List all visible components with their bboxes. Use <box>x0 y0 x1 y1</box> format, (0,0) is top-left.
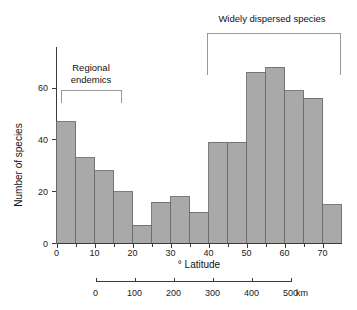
histogram-bar <box>114 192 133 244</box>
y-tick-label-0: 0 <box>43 239 48 249</box>
regional-endemics-label-line1: Regional <box>72 62 110 73</box>
histogram-bar <box>266 67 285 243</box>
histogram-bar <box>304 98 323 243</box>
widely-dispersed-label: Widely dispersed species <box>218 13 325 24</box>
histogram-bar <box>228 142 247 243</box>
x-tick-label: 70 <box>317 248 327 258</box>
species-latitude-histogram: 0 20 40 60 Number of species 01020304050… <box>0 0 357 310</box>
y-axis-title: Number of species <box>13 123 24 206</box>
histogram-bar <box>285 91 304 244</box>
x-tick-label: 40 <box>203 248 213 258</box>
km-tick-label: 100 <box>127 288 142 298</box>
histogram-bar <box>171 197 190 244</box>
histogram-bar <box>247 72 266 243</box>
x-axis-title: ° Latitude <box>178 259 221 270</box>
y-tick-label-20: 20 <box>38 187 48 197</box>
y-tick-label-40: 40 <box>38 135 48 145</box>
x-tick-label: 20 <box>127 248 137 258</box>
y-tick-label-60: 60 <box>38 83 48 93</box>
km-tick-label: 200 <box>166 288 181 298</box>
histogram-bar <box>57 122 76 244</box>
x-tick-label: 10 <box>89 248 99 258</box>
regional-endemics-label-line2: endemics <box>71 74 112 85</box>
km-axis-unit-label: km <box>296 288 308 298</box>
histogram-bar <box>133 225 152 243</box>
histogram-bar <box>95 171 114 244</box>
x-tick-label: 50 <box>241 248 251 258</box>
km-tick-label: 0 <box>93 288 98 298</box>
histogram-bar <box>76 158 95 244</box>
histogram-bar <box>209 142 228 243</box>
histogram-bar <box>323 205 342 244</box>
x-tick-label: 30 <box>165 248 175 258</box>
x-tick-label: 0 <box>54 248 59 258</box>
km-tick-label: 400 <box>244 288 259 298</box>
histogram-bar <box>152 202 171 243</box>
histogram-bar <box>190 212 209 243</box>
x-tick-label: 60 <box>279 248 289 258</box>
km-tick-label: 300 <box>205 288 220 298</box>
